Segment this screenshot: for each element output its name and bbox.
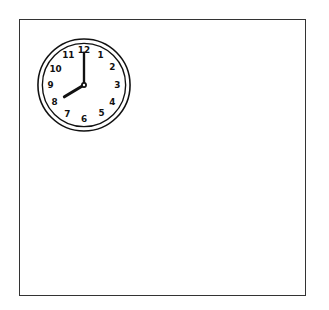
analog-clock: 12 1 2 3 4 5 6 7 8 9 10 11 bbox=[35, 36, 133, 134]
numeral-3: 3 bbox=[114, 80, 120, 90]
clock-icon: 12 1 2 3 4 5 6 7 8 9 10 11 bbox=[35, 36, 133, 134]
numeral-10: 10 bbox=[49, 64, 61, 74]
numeral-11: 11 bbox=[62, 50, 74, 60]
numeral-9: 9 bbox=[48, 80, 54, 90]
numeral-4: 4 bbox=[109, 97, 115, 107]
numeral-8: 8 bbox=[52, 97, 58, 107]
numeral-1: 1 bbox=[98, 50, 104, 60]
numeral-5: 5 bbox=[99, 108, 105, 118]
numeral-7: 7 bbox=[64, 109, 70, 119]
numeral-6: 6 bbox=[81, 114, 87, 124]
numeral-2: 2 bbox=[109, 62, 115, 72]
